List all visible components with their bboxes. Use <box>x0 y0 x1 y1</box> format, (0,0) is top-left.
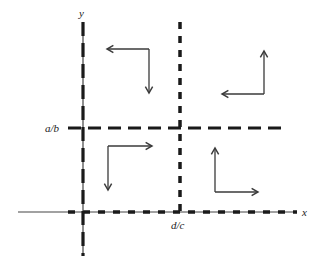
x-axis-label: x <box>301 206 307 218</box>
arrow-pair-bottom-right <box>215 148 258 192</box>
arrow-pair-bottom-left <box>108 146 152 190</box>
d-over-c-label: d/c <box>171 219 185 231</box>
arrow-pair-top-left <box>107 49 149 93</box>
phase-plane-diagram: y x a/b d/c <box>0 0 321 276</box>
a-over-b-label: a/b <box>45 122 60 134</box>
arrow-pair-top-right <box>222 51 264 94</box>
y-axis-label: y <box>78 7 84 19</box>
